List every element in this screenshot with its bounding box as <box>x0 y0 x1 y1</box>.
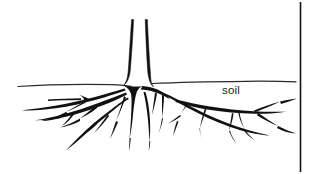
soil-label: soil <box>222 84 240 97</box>
figure-background <box>0 0 309 174</box>
root-system-figure: soil <box>0 0 309 174</box>
root-system-drawing <box>0 0 309 174</box>
